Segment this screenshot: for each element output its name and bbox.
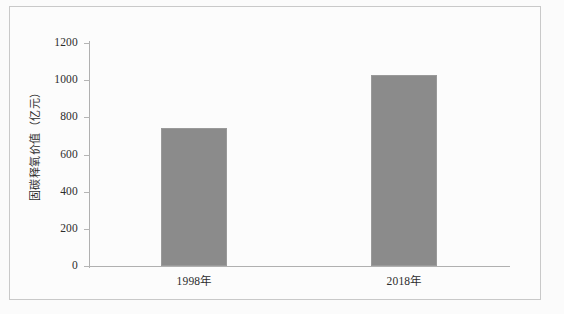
y-tick-label: 0 xyxy=(16,260,78,272)
x-tick-label: 1998年 xyxy=(134,272,254,288)
plot-area xyxy=(89,43,509,266)
x-tick-label: 2018年 xyxy=(344,272,464,288)
bar xyxy=(161,128,227,266)
y-tick-mark xyxy=(84,266,90,267)
x-axis-line xyxy=(89,266,510,267)
bar xyxy=(371,75,437,266)
y-axis-title: 固碳释氧价值（亿元） xyxy=(26,32,44,255)
chart-figure: 020040060080010001200 1998年2018年 固碳释氧价值（… xyxy=(0,0,564,314)
